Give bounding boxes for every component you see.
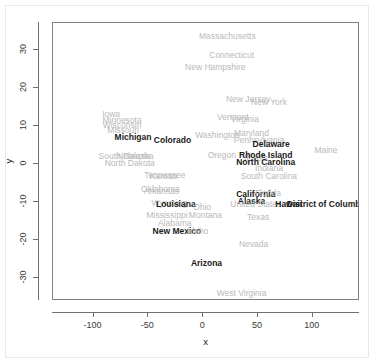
point-label: Maine	[314, 146, 337, 155]
y-axis-tick-label: 30	[18, 44, 28, 54]
point-label: Virginia	[231, 114, 259, 123]
point-label: Arizona	[191, 258, 222, 267]
y-axis-tick	[33, 49, 38, 50]
y-axis-title: y	[3, 159, 14, 164]
y-axis-tick	[33, 163, 38, 164]
point-label: South Carolina	[241, 172, 297, 181]
y-axis-tick	[33, 125, 38, 126]
point-label: New York	[251, 98, 287, 107]
point-label: Michigan	[115, 133, 152, 142]
x-axis-tick	[312, 312, 313, 317]
x-axis-tick	[202, 312, 203, 317]
y-axis-line	[38, 22, 39, 300]
point-label: Texas	[247, 213, 269, 222]
x-axis-tick	[147, 312, 148, 317]
point-label: Delaware	[253, 140, 290, 149]
y-axis-tick-label: -20	[18, 233, 28, 246]
point-label: Arkansas	[144, 186, 179, 195]
y-axis-tick-label: 10	[18, 120, 28, 130]
x-axis-tick-label: -100	[84, 320, 102, 330]
point-label: United States	[230, 199, 281, 208]
y-axis-tick-label: -30	[18, 271, 28, 284]
y-axis-tick-label: -10	[18, 194, 28, 207]
point-label: Louisiana	[156, 200, 196, 209]
scatter-plot-figure: MassachusettsConnecticutNew HampshireNew…	[0, 0, 374, 363]
point-label: Connecticut	[209, 51, 254, 60]
y-axis-tick-label: 20	[18, 82, 28, 92]
point-label: West Virginia	[217, 289, 267, 298]
point-label: Kansas	[150, 172, 178, 181]
x-axis-tick-label: 50	[252, 320, 262, 330]
point-label: Massachusetts	[199, 32, 256, 41]
y-axis-tick	[33, 277, 38, 278]
x-axis-tick	[257, 312, 258, 317]
x-axis-tick-label: 100	[304, 320, 319, 330]
point-label: Nevada	[239, 239, 268, 248]
x-axis-tick-label: 0	[200, 320, 205, 330]
point-label: Idaho	[187, 226, 208, 235]
x-axis-tick-label: -50	[141, 320, 154, 330]
y-axis-tick-label: 0	[18, 160, 28, 165]
point-label: Oregon	[208, 150, 236, 159]
y-axis-tick	[33, 87, 38, 88]
x-axis-line	[52, 312, 359, 313]
point-label: New Hampshire	[185, 62, 245, 71]
point-label: North Dakota	[105, 158, 155, 167]
point-label: Montana	[189, 210, 222, 219]
x-axis-title: x	[203, 336, 208, 347]
point-label: Colorado	[154, 135, 191, 144]
y-axis-tick	[33, 201, 38, 202]
x-axis-tick	[93, 312, 94, 317]
point-label: District of Columbia	[287, 200, 359, 209]
plot-panel: MassachusettsConnecticutNew HampshireNew…	[52, 22, 359, 300]
y-axis-tick	[33, 239, 38, 240]
